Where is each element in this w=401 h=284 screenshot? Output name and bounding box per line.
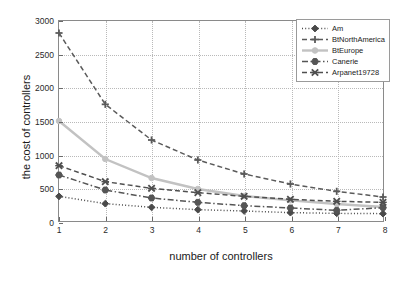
x-tick-mark: [106, 217, 107, 221]
x-tick-label: 3: [150, 225, 155, 235]
legend-marker-icon: [300, 67, 330, 78]
x-tick-label: 5: [243, 225, 248, 235]
y-tick-mark: [59, 156, 63, 157]
series-arpanet19728: [55, 162, 387, 205]
legend-item-bteurope: BtEurope: [300, 45, 385, 56]
legend-marker-icon: [300, 34, 330, 45]
legend-label: BtEurope: [330, 46, 363, 55]
y-tick-label: 2000: [35, 83, 54, 93]
y-tick-label: 1500: [35, 117, 54, 127]
y-tick-mark: [59, 122, 63, 123]
x-tick-label: 8: [383, 225, 388, 235]
legend-item-am: Am: [300, 23, 385, 34]
y-tick-label: 500: [40, 184, 54, 194]
y-axis-label: the cost of controllers: [20, 37, 32, 217]
y-tick-label: 1000: [35, 151, 54, 161]
x-tick-mark: [385, 217, 386, 221]
legend-label: Am: [330, 24, 343, 33]
y-tick-mark: [59, 189, 63, 190]
legend-item-canerie: Canerie: [300, 56, 385, 67]
x-tick-mark: [338, 217, 339, 221]
y-tick-label: 0: [49, 218, 54, 228]
y-tick-label: 3000: [35, 16, 54, 26]
x-tick-label: 6: [289, 225, 294, 235]
x-tick-label: 7: [336, 225, 341, 235]
x-tick-mark: [152, 217, 153, 221]
x-tick-mark: [59, 217, 60, 221]
legend-item-btnorthamerica: BtNorthAmerica: [300, 34, 385, 45]
y-tick-mark: [59, 223, 63, 224]
y-tick-mark: [59, 55, 63, 56]
x-tick-mark: [292, 217, 293, 221]
legend-marker-icon: [300, 45, 330, 56]
x-tick-mark: [199, 217, 200, 221]
series-line: [59, 121, 383, 207]
y-tick-mark: [59, 88, 63, 89]
legend-label: Canerie: [330, 57, 358, 66]
x-tick-label: 2: [103, 225, 108, 235]
legend-marker-icon: [300, 23, 330, 34]
series-bteurope: [56, 118, 386, 210]
y-tick-mark: [59, 21, 63, 22]
legend-label: Arpanet19728: [330, 68, 379, 77]
x-tick-mark: [245, 217, 246, 221]
y-tick-label: 2500: [35, 50, 54, 60]
legend-marker-icon: [300, 56, 330, 67]
legend-item-arpanet19728: Arpanet19728: [300, 67, 385, 78]
chart-container: 050010001500200025003000 12345678 number…: [0, 0, 401, 284]
legend-label: BtNorthAmerica: [330, 35, 385, 44]
chart-legend: AmBtNorthAmericaBtEuropeCanerieArpanet19…: [296, 19, 390, 82]
x-axis-label: number of controllers: [58, 250, 384, 262]
x-tick-label: 4: [196, 225, 201, 235]
x-tick-label: 1: [57, 225, 62, 235]
